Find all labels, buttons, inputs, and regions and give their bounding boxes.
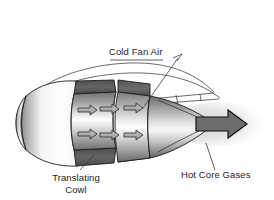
label-translating-cowl-line1: Translating xyxy=(52,172,100,183)
label-cold-fan-air: Cold Fan Air xyxy=(109,46,162,57)
label-hot-core-gases: Hot Core Gases xyxy=(181,169,251,180)
nose-fairing xyxy=(16,81,78,166)
turbofan-cutaway-diagram: Cold Fan Air Hot Core Gases Translating … xyxy=(0,0,274,200)
leader-hot-core-gases xyxy=(206,143,215,170)
figure-canvas: Cold Fan Air Hot Core Gases Translating … xyxy=(0,0,274,200)
fan-duct-ring-1 xyxy=(71,92,116,150)
leader-cold-fan-air xyxy=(173,54,182,61)
label-translating-cowl-line2: Cowl xyxy=(65,184,87,195)
fan-duct-ring-2 xyxy=(115,92,150,162)
